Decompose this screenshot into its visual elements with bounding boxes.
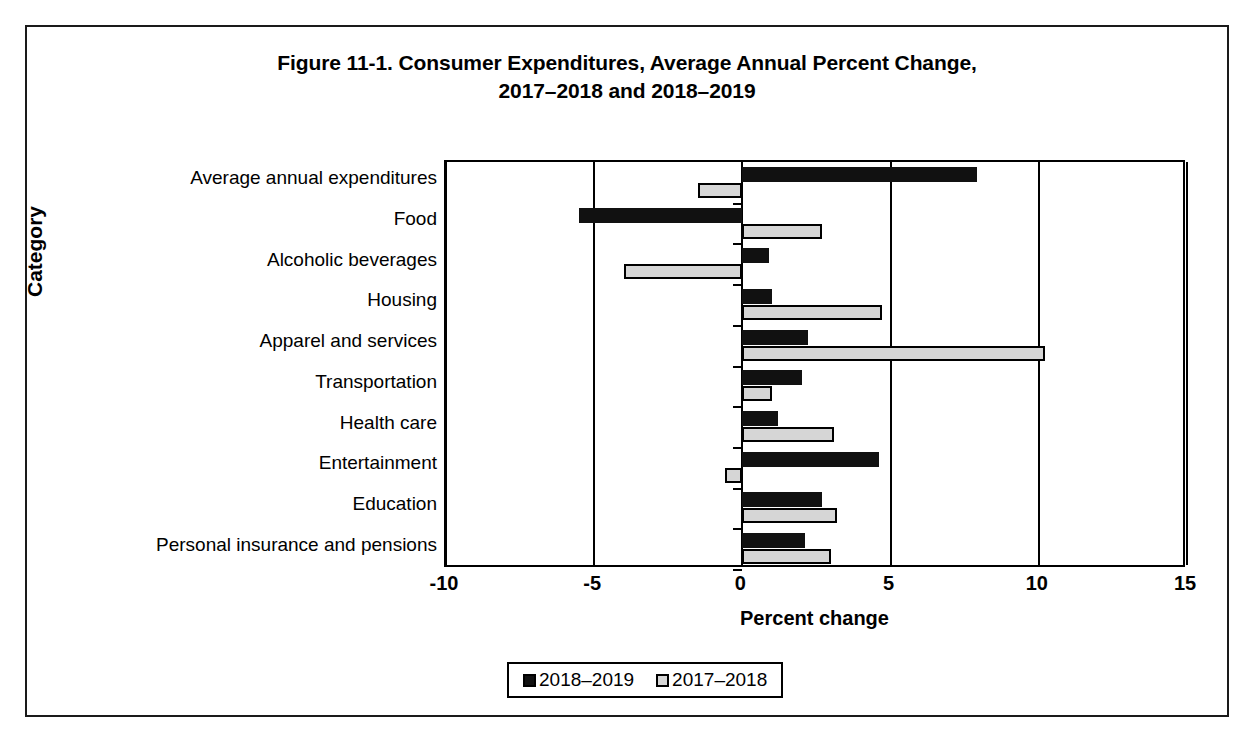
category-tick [733,203,742,205]
figure-frame: Figure 11-1. Consumer Expenditures, Aver… [25,25,1229,717]
gridline-10 [1038,162,1040,565]
y-axis-title: Category [23,206,47,297]
category-tick [733,406,742,408]
bar-2017-2018-average-annual-expenditures [698,183,742,198]
bar-2017-2018-entertainment [725,468,743,483]
bar-2018-2019-personal-insurance-and-pensions [742,533,804,548]
legend-swatch-icon [656,674,669,687]
bar-2018-2019-housing [742,289,772,304]
category-tick [733,488,742,490]
category-label: Apparel and services [260,330,437,352]
chart-title-line-1: Figure 11-1. Consumer Expenditures, Aver… [147,49,1107,77]
bar-2017-2018-housing [742,305,881,320]
category-label: Housing [367,289,437,311]
category-label: Entertainment [319,452,437,474]
x-tick-label: -5 [583,572,601,595]
x-tick-label: -10 [430,572,459,595]
category-tick [733,366,742,368]
legend-label: 2018–2019 [539,669,634,691]
page-title: Figure 11-1. Consumer Expenditures, Aver… [147,49,1107,105]
x-tick-label: 5 [883,572,894,595]
category-tick [733,569,742,571]
x-tick-label: 10 [1026,572,1048,595]
bar-2017-2018-transportation [742,386,772,401]
category-label: Average annual expenditures [190,167,437,189]
bar-2017-2018-personal-insurance-and-pensions [742,549,831,564]
category-tick [733,243,742,245]
category-tick [733,284,742,286]
bar-2017-2018-food [742,224,822,239]
bar-2017-2018-health-care [742,427,834,442]
category-label: Personal insurance and pensions [156,534,437,556]
bar-2018-2019-entertainment [742,452,878,467]
bar-2017-2018-apparel-and-services [742,346,1044,361]
category-tick [733,528,742,530]
bar-2018-2019-food [579,208,742,223]
category-label: Transportation [315,371,437,393]
bar-2017-2018-education [742,508,837,523]
bar-2018-2019-transportation [742,370,801,385]
category-label: Health care [340,412,437,434]
bar-2018-2019-average-annual-expenditures [742,167,976,182]
category-label: Alcoholic beverages [267,249,437,271]
category-tick [733,447,742,449]
category-label: Education [352,493,437,515]
legend-item: 2017–2018 [656,669,767,691]
legend-swatch-icon [523,674,536,687]
bar-2018-2019-alcoholic-beverages [742,248,769,263]
chart-legend: 2018–20192017–2018 [507,662,783,698]
x-axis-tick-labels: -10-5051015 [444,572,1185,602]
gridline--10 [445,162,447,565]
category-axis-labels: Average annual expendituresFoodAlcoholic… [122,160,437,567]
category-tick [733,325,742,327]
bar-2018-2019-health-care [742,411,778,426]
x-tick-label: 0 [735,572,746,595]
bar-2018-2019-apparel-and-services [742,330,807,345]
legend-item: 2018–2019 [523,669,634,691]
legend-label: 2017–2018 [672,669,767,691]
chart-title-line-2: 2017–2018 and 2018–2019 [147,77,1107,105]
bar-2017-2018-alcoholic-beverages [624,264,743,279]
category-label: Food [394,208,437,230]
gridline-15 [1186,162,1188,565]
plot-area [444,160,1185,567]
x-axis-title: Percent change [444,607,1185,630]
gridline-5 [890,162,892,565]
bar-2018-2019-education [742,492,822,507]
x-tick-label: 15 [1174,572,1196,595]
